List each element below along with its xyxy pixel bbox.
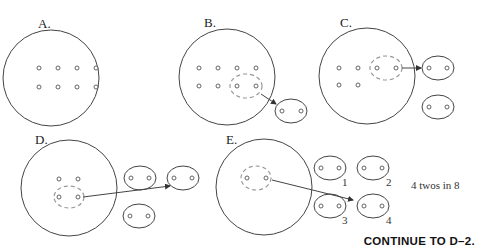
note-text: 4 twos in 8 xyxy=(411,179,460,191)
arrow xyxy=(261,94,276,104)
panel-c: C. xyxy=(319,15,454,124)
set-circle xyxy=(21,140,117,236)
group-number: 4 xyxy=(386,214,392,226)
set-circle xyxy=(179,29,275,125)
panel-e: E. 1 2 3 4 4 twos in 8 xyxy=(216,132,460,235)
panel-d: D. xyxy=(21,132,199,236)
dots xyxy=(37,66,98,89)
continue-label: CONTINUE TO D–2. xyxy=(364,235,475,247)
group-number: 1 xyxy=(342,176,348,188)
set-circle xyxy=(3,30,99,126)
panel-b-label: B. xyxy=(204,15,216,30)
panel-a: A. xyxy=(3,16,99,126)
dots xyxy=(337,66,398,87)
panel-c-label: C. xyxy=(340,15,352,30)
set-circle xyxy=(319,28,415,124)
panel-d-label: D. xyxy=(35,132,48,147)
division-diagram: A. B. C. xyxy=(0,0,482,251)
arrow xyxy=(83,186,170,197)
set-circle xyxy=(216,139,312,235)
group-number: 3 xyxy=(342,214,348,226)
group-number: 2 xyxy=(386,176,392,188)
panel-b: B. xyxy=(179,15,307,125)
panel-e-label: E. xyxy=(226,132,237,147)
panel-a-label: A. xyxy=(38,16,51,31)
dots xyxy=(197,66,258,88)
